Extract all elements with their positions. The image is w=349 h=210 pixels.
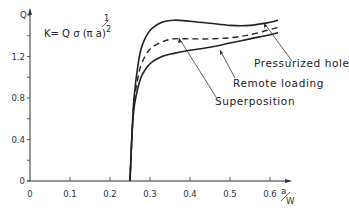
x-axis-label: a W [281, 185, 295, 206]
x-tick-label: 0.6 [263, 188, 277, 199]
y-axis-arrow-icon [28, 8, 32, 15]
y-tick-label: 1.2 [11, 51, 25, 62]
y-axis-label: Q [20, 9, 27, 20]
x-tick-label: 0 [27, 188, 32, 199]
formula-label: K= Q σ (π a) 1 2 [44, 14, 111, 39]
annotation-remote-loading: Remote loading [220, 50, 324, 89]
svg-text:W: W [286, 195, 295, 206]
x-tick-label: 0.3 [143, 188, 157, 199]
y-tick-label: 0.8 [11, 92, 25, 103]
annotation-superposition: Superposition [178, 38, 295, 107]
x-axis-arrow-icon [285, 179, 292, 183]
y-tick-label: 0 [20, 175, 25, 186]
y-ticks: 00.40.81.2 [11, 15, 30, 186]
svg-text:2: 2 [106, 25, 111, 34]
x-tick-label: 0.4 [183, 188, 197, 199]
annotation-pressurized-hole: Pressurized hole [254, 23, 349, 69]
svg-text:Pressurized hole: Pressurized hole [254, 57, 349, 69]
chart-canvas: 00.10.20.30.40.50.6 00.40.81.2 Q a W K= … [0, 0, 349, 210]
svg-text:K= Q σ (π a): K= Q σ (π a) [44, 28, 106, 39]
x-tick-label: 0.2 [103, 188, 117, 199]
x-tick-label: 0.1 [63, 188, 77, 199]
svg-text:Superposition: Superposition [215, 95, 295, 107]
x-ticks: 00.10.20.30.40.50.6 [27, 177, 277, 199]
y-tick-label: 0.4 [11, 134, 25, 145]
svg-text:Remote loading: Remote loading [233, 77, 324, 89]
x-tick-label: 0.5 [223, 188, 237, 199]
svg-text:1: 1 [104, 14, 109, 23]
